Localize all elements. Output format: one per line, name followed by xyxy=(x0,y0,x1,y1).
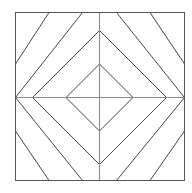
figure-canvas xyxy=(0,0,192,193)
concentric-diamond-figure xyxy=(0,0,192,193)
figure-background xyxy=(0,0,192,193)
